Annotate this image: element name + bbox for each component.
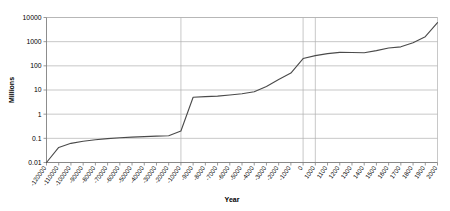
x-axis-tick-labels: -120000-110000-100000-90000-80000-70000-… [29,164,439,187]
y-axis-tick-label: 10000 [23,14,42,21]
x-axis-tick-label: 1200 [327,164,341,180]
y-axis-tick-label: 1000 [26,38,41,45]
x-axis-tick-label: 1100 [315,164,329,179]
x-axis-tick-label: 1600 [376,164,390,180]
x-axis-title: Year [225,196,240,203]
y-axis-tick-label: 0.01 [28,159,41,166]
y-axis-tick-labels: 1000010001001010.10.01 [23,14,42,166]
x-axis-tick-label: 1000 [303,164,317,180]
population-line [47,23,438,163]
population-history-chart: 1000010001001010.10.01 -120000-110000-10… [0,0,450,211]
chart-canvas: 1000010001001010.10.01 -120000-110000-10… [0,0,450,211]
x-axis-tick-label: -1000 [277,164,292,181]
x-axis-tick-label: 1800 [400,164,414,180]
x-axis-tick-label: 1300 [339,164,353,180]
y-axis-tick-label: 1 [38,111,42,118]
x-axis-tick-label: -10000 [165,164,182,184]
y-axis-title: Millions [8,77,15,103]
y-axis-tick-label: 10 [34,86,42,93]
x-axis-tick-label: 1400 [351,164,365,180]
y-axis-tick-label: 0.1 [32,135,42,142]
x-axis-tick-label: 1900 [412,164,426,180]
y-axis-tick-label: 100 [30,62,42,69]
x-axis-tick-label: 1500 [364,164,378,180]
x-axis-tick-label: 1700 [388,164,402,180]
x-axis-tick-label: 2000 [425,164,439,180]
population-line-series [47,23,438,163]
horizontal-gridlines [47,18,438,163]
